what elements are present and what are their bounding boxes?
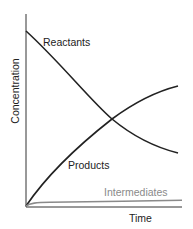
reactants-label: Reactants xyxy=(43,36,90,48)
intermediates-curve xyxy=(26,200,182,206)
reactants-curve xyxy=(26,31,178,153)
intermediates-label: Intermediates xyxy=(104,186,168,198)
products-label: Products xyxy=(68,159,109,171)
x-axis-label: Time xyxy=(129,212,152,224)
concentration-time-chart: Reactants Products Intermediates Time Co… xyxy=(0,0,193,229)
y-axis-label: Concentration xyxy=(9,58,21,124)
